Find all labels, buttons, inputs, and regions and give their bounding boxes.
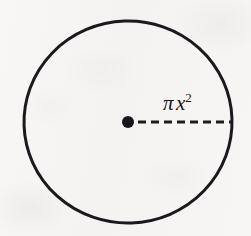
center-dot (122, 116, 134, 128)
exponent-two: 2 (185, 90, 192, 105)
circle-diagram-svg (0, 0, 251, 236)
variable-x: x (174, 91, 185, 115)
radius-label: πx2 (163, 93, 192, 114)
figure-canvas: πx2 (0, 0, 251, 236)
pi-symbol: π (163, 91, 174, 115)
